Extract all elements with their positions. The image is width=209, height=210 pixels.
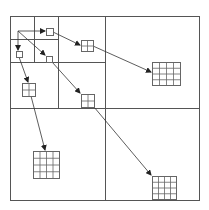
quadtree-diagram [0, 0, 209, 210]
grid-node-1x1 [47, 57, 53, 63]
grid-node-4x4 [153, 177, 177, 200]
grid-node-1x1 [17, 52, 23, 58]
arrow-n2c-to-n3c [94, 107, 151, 175]
arrow-n1c-to-n2c [52, 62, 80, 93]
grid-node-2x2 [23, 84, 36, 97]
grid-node-4x4 [153, 63, 181, 86]
arrow-n2b-to-n3b [31, 96, 45, 150]
grid-node-2x2 [82, 41, 94, 52]
cell-nodes [17, 29, 181, 200]
grid-node-2x2 [82, 95, 95, 108]
arrow-n1b-to-n2b [19, 57, 28, 82]
grid-node-1x1 [47, 29, 54, 36]
arrow-n1a-to-n2a [53, 32, 80, 45]
grid-node-4x4 [34, 152, 60, 179]
arrow-n2a-to-n3a [93, 46, 151, 72]
